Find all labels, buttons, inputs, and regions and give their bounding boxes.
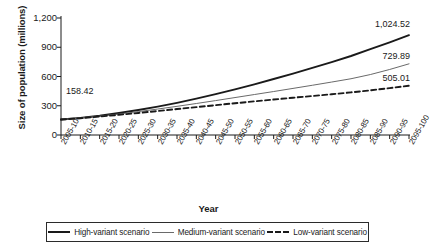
end-value-label: 1,024.52 [375, 19, 410, 29]
legend-swatch-icon [267, 231, 289, 233]
x-axis-title: Year [0, 203, 417, 214]
legend-swatch-icon [152, 232, 174, 233]
legend-swatch-icon [48, 231, 70, 233]
end-value-label: 729.89 [382, 51, 410, 61]
legend-label: High-variant scenario [74, 228, 149, 237]
legend-label: Low-variant scenario [293, 228, 367, 237]
series-layer [61, 35, 409, 119]
chart-legend: High-variant scenarioMedium-variant scen… [46, 222, 369, 242]
legend-item: Low-variant scenario [267, 228, 367, 237]
legend-item: Medium-variant scenario [152, 228, 265, 237]
series-line [61, 86, 409, 120]
end-value-label: 505.01 [382, 73, 410, 83]
legend-label: Medium-variant scenario [178, 228, 265, 237]
legend-item: High-variant scenario [48, 228, 149, 237]
start-value-label: 158.42 [66, 86, 94, 96]
